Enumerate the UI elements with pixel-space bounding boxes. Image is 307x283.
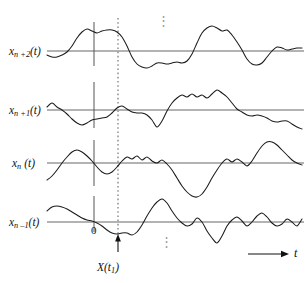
trace-x-n-minus-1 bbox=[47, 199, 302, 243]
figure-canvas bbox=[0, 0, 307, 283]
ellipsis-bottom: ⋮ bbox=[160, 235, 173, 248]
time-axis-arrow bbox=[248, 251, 289, 258]
trace-label-x-n: xn (t) bbox=[12, 158, 35, 171]
trace-x-n-plus-1 bbox=[47, 90, 302, 129]
random-process-ensemble-figure: xn +2(t) xn +1(t) xn (t) xn –1(t) 0 t X(… bbox=[0, 0, 307, 283]
trace-label-x-n-plus-2: xn +2(t) bbox=[9, 46, 41, 59]
trace-label-x-n-plus-1: xn +1(t) bbox=[9, 105, 41, 118]
time-axis-arrow-head bbox=[281, 251, 289, 258]
sample-value-label: X(t1) bbox=[97, 262, 119, 275]
ellipsis-top: ⋮ bbox=[157, 14, 170, 27]
trace-x-n-plus-2 bbox=[47, 26, 302, 68]
time-axis-label: t bbox=[294, 247, 297, 259]
trace-label-x-n-minus-1: xn –1(t) bbox=[9, 217, 39, 230]
baselines bbox=[47, 51, 304, 222]
origin-label: 0 bbox=[91, 225, 97, 236]
sample-value-arrow bbox=[115, 234, 121, 252]
sample-function-traces bbox=[47, 26, 302, 243]
sample-value-arrow-head bbox=[115, 234, 121, 242]
trace-x-n bbox=[47, 142, 302, 198]
